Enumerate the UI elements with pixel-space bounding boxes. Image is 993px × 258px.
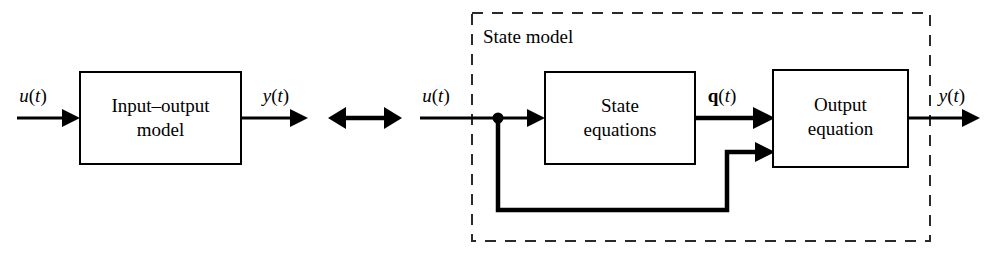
input-output-model-label-line1: Input–output — [111, 95, 210, 116]
right-model-group: State model u(t) State equations — [420, 13, 980, 241]
state-model-group-label: State model — [483, 26, 573, 47]
right-output-label: y(t) — [937, 85, 965, 107]
right-input-arrowhead — [527, 109, 545, 127]
right-input-arrow — [420, 109, 545, 127]
left-output-label: y(t) — [261, 85, 289, 107]
right-output-arrow — [908, 109, 980, 127]
input-output-model-label-line2: model — [137, 119, 185, 140]
block-diagram-figure: u(t) Input–output model y(t) State model — [0, 0, 993, 258]
equivalence-double-arrow-icon — [328, 107, 402, 129]
left-input-arrow — [17, 109, 80, 127]
left-input-label: u(t) — [19, 85, 46, 107]
equivalence-arrowhead-left — [328, 107, 346, 129]
left-model-group: u(t) Input–output model y(t) — [17, 72, 308, 164]
output-equation-label-line2: equation — [808, 118, 874, 139]
input-output-model-block — [80, 72, 241, 164]
left-output-arrow — [241, 109, 308, 127]
state-equations-block — [545, 72, 695, 164]
state-equations-label-line1: State — [601, 95, 639, 116]
left-output-arrowhead — [290, 109, 308, 127]
output-equation-label-line1: Output — [814, 94, 868, 115]
equivalence-arrowhead-right — [384, 107, 402, 129]
state-signal-arrowhead — [753, 107, 775, 129]
diagram-canvas: u(t) Input–output model y(t) State model — [0, 0, 993, 258]
right-input-label: u(t) — [422, 85, 449, 107]
state-equations-label-line2: equations — [584, 119, 657, 140]
left-input-arrowhead — [62, 109, 80, 127]
state-signal-label: q(t) — [708, 85, 737, 107]
right-output-arrowhead — [962, 109, 980, 127]
state-signal-arrow — [695, 107, 775, 129]
